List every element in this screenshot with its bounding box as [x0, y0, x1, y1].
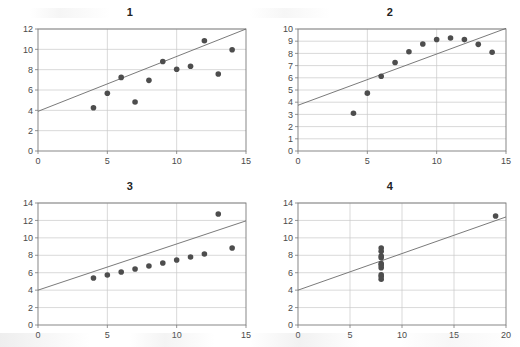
data-point: [392, 60, 398, 66]
data-point: [132, 266, 138, 272]
y-axis-tick-label: 6: [288, 268, 293, 278]
y-axis-tick-label: 7: [288, 61, 293, 71]
x-axis-tick-label: 20: [501, 330, 511, 340]
scatter-plot-4: 0246810121405101520: [260, 174, 520, 347]
data-point: [118, 269, 124, 275]
data-point: [215, 71, 221, 77]
data-point: [434, 37, 440, 43]
data-point: [448, 35, 454, 41]
x-axis-tick-label: 5: [105, 156, 110, 166]
data-point: [146, 263, 152, 269]
x-axis-tick-label: 0: [35, 330, 40, 340]
chart-panel-3: 3 02468101214051015: [0, 174, 260, 347]
data-point: [351, 110, 357, 116]
data-point: [174, 66, 180, 72]
regression-line: [38, 29, 246, 111]
x-axis-tick-label: 15: [449, 330, 459, 340]
data-point: [174, 257, 180, 263]
data-point: [229, 47, 235, 53]
y-axis-tick-label: 4: [28, 106, 33, 116]
x-axis-tick-label: 15: [501, 156, 511, 166]
data-point: [420, 41, 426, 47]
y-axis-tick-label: 4: [28, 285, 33, 295]
data-point: [160, 59, 166, 65]
y-axis-tick-label: 6: [28, 85, 33, 95]
scatter-plot-2: 012345678910051015: [260, 0, 520, 173]
data-point: [202, 251, 208, 257]
regression-line: [298, 28, 506, 105]
chart-panel-2: 2 012345678910051015: [260, 0, 520, 173]
data-point: [378, 248, 384, 254]
y-axis-tick-label: 2: [288, 303, 293, 313]
data-point: [378, 262, 384, 268]
data-point: [160, 260, 166, 266]
y-axis-tick-label: 4: [288, 97, 293, 107]
y-axis-tick-label: 1: [288, 134, 293, 144]
data-point: [406, 49, 412, 55]
y-axis-tick-label: 10: [283, 233, 293, 243]
x-axis-tick-label: 0: [295, 330, 300, 340]
data-point: [91, 105, 97, 111]
y-axis-tick-label: 12: [283, 216, 293, 226]
y-axis-tick-label: 0: [288, 146, 293, 156]
data-point: [202, 38, 208, 44]
y-axis-tick-label: 6: [288, 73, 293, 83]
y-axis-tick-label: 0: [288, 320, 293, 330]
x-axis-tick-label: 10: [397, 330, 407, 340]
data-point: [462, 37, 468, 43]
scatter-plot-3: 02468101214051015: [0, 174, 260, 347]
x-axis-tick-label: 15: [241, 156, 251, 166]
x-axis-tick-label: 5: [347, 330, 352, 340]
data-point: [489, 49, 495, 55]
y-axis-tick-label: 2: [28, 126, 33, 136]
data-point: [365, 90, 371, 96]
data-point: [378, 274, 384, 280]
y-axis-tick-label: 14: [23, 198, 33, 208]
data-point: [118, 75, 124, 81]
y-axis-tick-label: 10: [283, 24, 293, 34]
data-point: [146, 78, 152, 84]
data-point: [188, 254, 194, 260]
data-point: [475, 42, 481, 48]
y-axis-tick-label: 8: [28, 65, 33, 75]
y-axis-tick-label: 12: [23, 216, 33, 226]
chart-panel-4: 4 0246810121405101520: [260, 174, 520, 347]
plot-frame: [38, 203, 246, 325]
x-axis-tick-label: 10: [172, 156, 182, 166]
y-axis-tick-label: 8: [288, 250, 293, 260]
x-axis-tick-label: 10: [172, 330, 182, 340]
data-point: [215, 211, 221, 217]
data-point: [493, 213, 499, 219]
y-axis-tick-label: 2: [28, 303, 33, 313]
y-axis-tick-label: 12: [23, 24, 33, 34]
y-axis-tick-label: 0: [28, 320, 33, 330]
data-point: [91, 275, 97, 281]
x-axis-tick-label: 15: [241, 330, 251, 340]
chart-panel-1: 1 024681012051015: [0, 0, 260, 173]
y-axis-tick-label: 5: [288, 85, 293, 95]
y-axis-tick-label: 8: [288, 49, 293, 59]
data-point: [105, 90, 111, 96]
scatter-plot-1: 024681012051015: [0, 0, 260, 173]
data-point: [378, 253, 384, 259]
y-axis-tick-label: 10: [23, 45, 33, 55]
x-axis-tick-label: 0: [35, 156, 40, 166]
data-point: [105, 272, 111, 278]
x-axis-tick-label: 0: [295, 156, 300, 166]
y-axis-tick-label: 4: [288, 285, 293, 295]
y-axis-tick-label: 9: [288, 36, 293, 46]
y-axis-tick-label: 10: [23, 233, 33, 243]
anscombes-quartet-figure: 1 024681012051015 2 012345678910051015 3…: [0, 0, 520, 347]
y-axis-tick-label: 2: [288, 122, 293, 132]
data-point: [132, 99, 138, 105]
y-axis-tick-label: 0: [28, 146, 33, 156]
data-point: [188, 64, 194, 70]
y-axis-tick-label: 14: [283, 198, 293, 208]
y-axis-tick-label: 3: [288, 110, 293, 120]
data-point: [229, 245, 235, 251]
data-point: [378, 73, 384, 79]
y-axis-tick-label: 6: [28, 268, 33, 278]
x-axis-tick-label: 10: [432, 156, 442, 166]
y-axis-tick-label: 8: [28, 250, 33, 260]
x-axis-tick-label: 5: [365, 156, 370, 166]
